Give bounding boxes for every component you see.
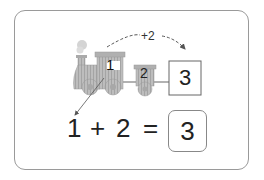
result-box-number: 3 [169, 61, 201, 95]
equation-operand-2: 2 [116, 108, 130, 148]
train-illustration [0, 0, 264, 180]
carriage-number: 2 [140, 65, 148, 81]
engine-icon [74, 52, 126, 95]
equation-operand-1: 1 [67, 108, 81, 148]
equation-equals: = [143, 108, 158, 148]
equation-operator: + [90, 108, 105, 148]
engine-number: 1 [106, 56, 114, 73]
arc-label: +2 [141, 29, 155, 43]
answer-box: 3 [168, 110, 207, 152]
